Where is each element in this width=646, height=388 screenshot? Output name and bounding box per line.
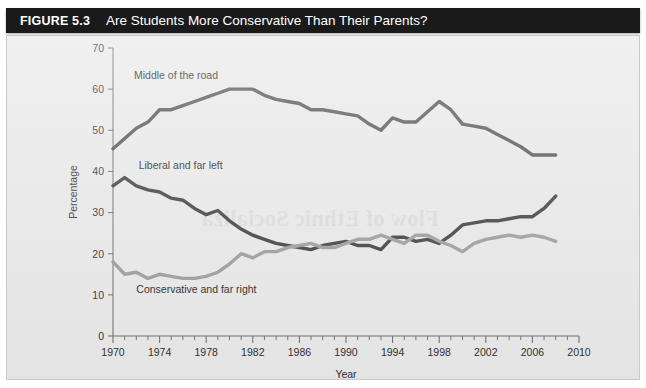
line-chart: 010203040506070Percentage197019741978198… <box>7 36 640 380</box>
x-tick-label: 1990 <box>334 346 358 358</box>
y-axis-title: Percentage <box>67 165 79 219</box>
y-tick-label: 10 <box>92 289 104 301</box>
x-tick-label: 1998 <box>428 346 452 358</box>
series-annotation-label: Liberal and far left <box>139 159 223 171</box>
x-tick-label: 1970 <box>101 346 125 358</box>
chart-panel: Flow of Ethnic Socializa 010203040506070… <box>6 35 640 380</box>
y-tick-label: 20 <box>92 248 104 260</box>
y-tick-label: 40 <box>92 165 104 177</box>
y-tick-label: 60 <box>92 83 104 95</box>
figure-container: FIGURE 5.3 Are Students More Conservativ… <box>0 0 646 388</box>
figure-title-text: Are Students More Conservative Than Thei… <box>106 13 427 28</box>
x-tick-label: 1974 <box>148 346 172 358</box>
series-line-conservative-and-far-right <box>113 235 556 278</box>
y-tick-label: 50 <box>92 124 104 136</box>
x-tick-label: 1986 <box>288 346 312 358</box>
x-tick-label: 2006 <box>521 346 545 358</box>
series-annotation-label: Conservative and far right <box>136 283 256 295</box>
series-line-middle-of-the-road <box>113 89 556 155</box>
y-tick-label: 30 <box>92 206 104 218</box>
x-axis-title: Year <box>335 368 357 380</box>
x-tick-label: 2010 <box>567 346 591 358</box>
y-tick-label: 0 <box>98 330 104 342</box>
y-tick-label: 70 <box>92 42 104 54</box>
series-annotation-label: Middle of the road <box>134 69 218 81</box>
figure-number-label: FIGURE 5.3 <box>20 14 90 28</box>
x-tick-label: 1994 <box>381 346 405 358</box>
x-tick-label: 1982 <box>241 346 265 358</box>
x-tick-label: 2002 <box>474 346 498 358</box>
figure-title-bar: FIGURE 5.3 Are Students More Conservativ… <box>6 8 640 33</box>
x-tick-label: 1978 <box>195 346 219 358</box>
